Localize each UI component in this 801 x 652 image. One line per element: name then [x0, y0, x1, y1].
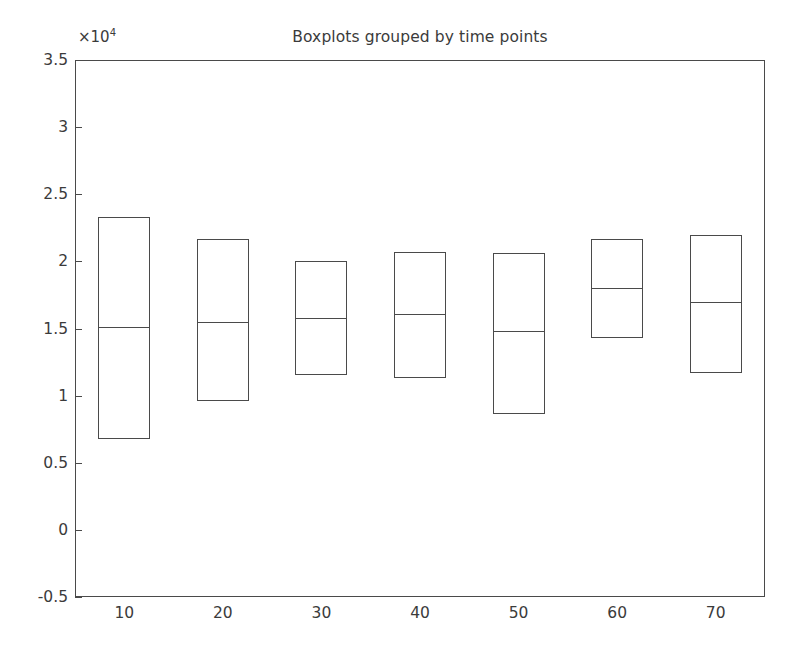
- boxplot-median-line: [295, 318, 347, 319]
- boxplot-median-line: [591, 288, 643, 289]
- x-axis-tick-label: 40: [385, 604, 455, 622]
- boxplot-box-rect: [197, 239, 249, 401]
- boxplot-box-rect: [394, 252, 446, 378]
- boxplot-median-line: [493, 331, 545, 332]
- x-axis-tick-label: 60: [582, 604, 652, 622]
- x-axis-tick-label: 70: [681, 604, 751, 622]
- boxplot-median-line: [98, 327, 150, 328]
- boxplot-figure: Boxplots grouped by time points ×104 3.5…: [0, 0, 801, 652]
- x-axis-tick-label: 50: [484, 604, 554, 622]
- boxplot-median-line: [197, 322, 249, 323]
- boxplot-box-rect: [690, 235, 742, 373]
- boxplot-median-line: [690, 302, 742, 303]
- boxplot-box-rect: [493, 253, 545, 414]
- x-axis-tick-label: 10: [89, 604, 159, 622]
- x-axis-tick-label: 20: [188, 604, 258, 622]
- x-axis-tick-label: 30: [286, 604, 356, 622]
- boxplot-median-line: [394, 314, 446, 315]
